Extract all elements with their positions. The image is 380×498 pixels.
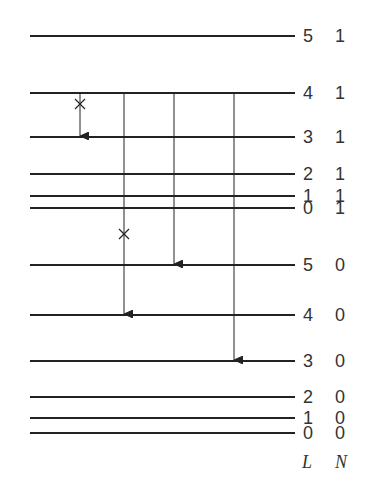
energy-levels <box>30 36 295 433</box>
level-labels: 514131211101504030201000 <box>303 26 345 443</box>
level-label-N: 1 <box>335 26 345 46</box>
level-label-N: 1 <box>335 127 345 147</box>
level-label-L: 0 <box>303 198 313 218</box>
level-label-N: 0 <box>335 387 345 407</box>
level-label-L: 5 <box>303 26 313 46</box>
level-label-N: 0 <box>335 351 345 371</box>
level-label-N: 1 <box>335 83 345 103</box>
level-label-N: 0 <box>335 305 345 325</box>
level-label-L: 2 <box>303 164 313 184</box>
level-label-L: 3 <box>303 351 313 371</box>
level-label-N: 1 <box>335 198 345 218</box>
level-label-L: 2 <box>303 387 313 407</box>
level-label-N: 0 <box>335 255 345 275</box>
column-header-L: L <box>301 452 312 472</box>
level-label-L: 3 <box>303 127 313 147</box>
level-label-N: 0 <box>335 423 345 443</box>
transitions <box>75 93 234 360</box>
level-label-L: 4 <box>303 83 313 103</box>
level-label-L: 5 <box>303 255 313 275</box>
energy-level-diagram: 514131211101504030201000 L N <box>0 0 380 498</box>
column-header-N: N <box>334 452 348 472</box>
level-label-N: 1 <box>335 164 345 184</box>
level-label-L: 4 <box>303 305 313 325</box>
level-label-L: 0 <box>303 423 313 443</box>
